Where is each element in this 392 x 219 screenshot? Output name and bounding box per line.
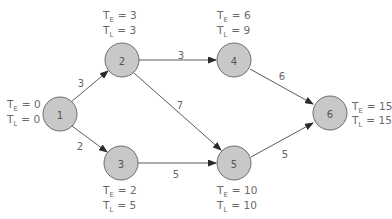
node-2-label: 2 xyxy=(119,56,125,67)
node-2: 2 xyxy=(105,43,139,77)
weight-4-6: 6 xyxy=(279,71,285,82)
node-4-te: TE= 6 xyxy=(216,9,251,24)
node-4-label: 4 xyxy=(231,56,237,67)
node-2-te: TE= 3 xyxy=(102,9,137,24)
node-6: 6 xyxy=(313,96,347,130)
weight-3-5: 5 xyxy=(173,169,179,180)
node-3-times: TE= 2 TL= 5 xyxy=(102,184,137,214)
node-5-times: TE= 10 TL= 10 xyxy=(216,184,257,214)
node-2-tl: TL= 3 xyxy=(102,24,136,39)
network-diagram: 3 2 3 7 5 6 5 1 2 3 4 5 6 TE= 0 TL= 0 TE… xyxy=(0,0,392,219)
node-6-label: 6 xyxy=(327,109,333,120)
edge-1-2 xyxy=(71,71,108,102)
node-5-label: 5 xyxy=(231,159,237,170)
weight-2-5: 7 xyxy=(177,100,183,111)
node-2-times: TE= 3 TL= 3 xyxy=(102,9,137,39)
node-6-times: TE= 15 TL= 15 xyxy=(351,100,392,129)
node-1: 1 xyxy=(43,97,77,131)
weight-1-3: 2 xyxy=(77,141,83,152)
node-1-times: TE= 0 TL= 0 xyxy=(6,98,41,128)
node-1-tl: TL= 0 xyxy=(6,113,40,128)
edge-2-5 xyxy=(134,73,221,150)
edges xyxy=(71,60,313,163)
node-3-label: 3 xyxy=(118,159,124,170)
node-5: 5 xyxy=(217,146,251,180)
node-6-te: TE= 15 xyxy=(351,100,392,115)
node-5-te: TE= 10 xyxy=(216,184,257,199)
node-3: 3 xyxy=(104,146,138,180)
node-4-times: TE= 6 TL= 9 xyxy=(216,9,251,39)
weight-5-6: 5 xyxy=(282,149,288,160)
node-4-tl: TL= 9 xyxy=(216,24,250,39)
weight-2-4: 3 xyxy=(178,50,184,61)
node-5-tl: TL= 10 xyxy=(216,199,257,214)
node-4: 4 xyxy=(217,43,251,77)
node-3-te: TE= 2 xyxy=(102,184,137,199)
node-3-tl: TL= 5 xyxy=(102,199,136,214)
node-1-te: TE= 0 xyxy=(6,98,41,113)
weight-1-2: 3 xyxy=(78,78,84,89)
node-6-tl: TL= 15 xyxy=(351,114,392,129)
node-1-label: 1 xyxy=(57,110,63,121)
